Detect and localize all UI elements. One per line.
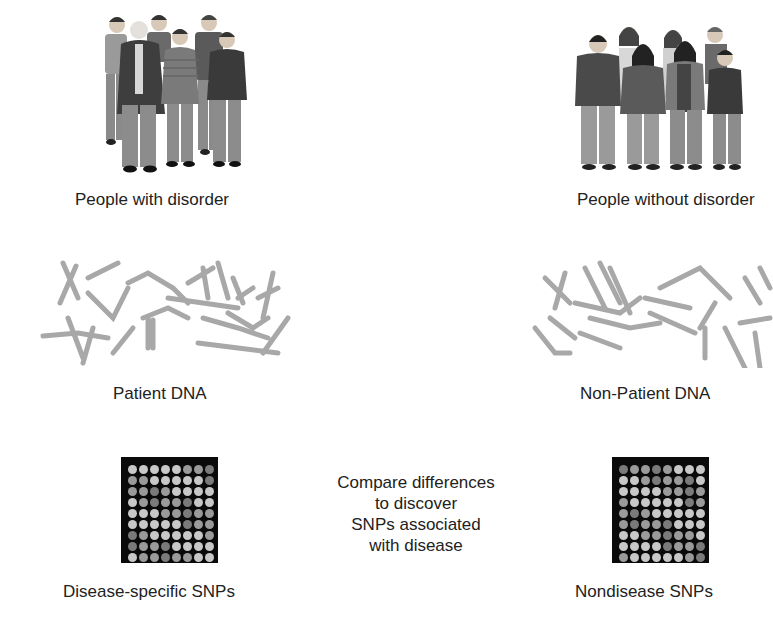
snp-spot	[205, 487, 214, 496]
snp-spot	[663, 542, 672, 551]
snp-spot	[674, 509, 683, 518]
snp-spot	[194, 531, 203, 540]
non-patient-chromosomes-illustration	[530, 258, 773, 368]
person-icon	[575, 35, 621, 170]
snp-spot	[128, 487, 137, 496]
snp-spot	[172, 509, 181, 518]
snp-spot	[194, 520, 203, 529]
snp-spot	[663, 553, 672, 562]
snp-spot	[663, 487, 672, 496]
snp-spot	[641, 487, 650, 496]
snp-spot	[183, 509, 192, 518]
disease-snp-microarray	[121, 457, 218, 563]
snp-spot	[696, 509, 705, 518]
snp-spot	[183, 487, 192, 496]
snp-spot	[641, 509, 650, 518]
snp-spot	[696, 498, 705, 507]
people-with-disorder-label: People with disorder	[75, 190, 229, 210]
snp-spot	[172, 520, 181, 529]
snp-spot	[663, 498, 672, 507]
snp-spot	[150, 487, 159, 496]
snp-spot	[161, 531, 170, 540]
snp-spot	[161, 520, 170, 529]
snp-spot	[161, 498, 170, 507]
people-with-disorder-illustration	[95, 10, 255, 175]
snp-spot	[652, 520, 661, 529]
snp-spot	[172, 498, 181, 507]
snp-spot	[139, 498, 148, 507]
snp-spot	[619, 476, 628, 485]
snp-spot	[674, 498, 683, 507]
snp-spot	[619, 553, 628, 562]
snp-spot	[696, 465, 705, 474]
snp-spot	[139, 553, 148, 562]
snp-spot	[641, 520, 650, 529]
snp-spot	[663, 520, 672, 529]
snp-spot	[139, 542, 148, 551]
snp-spot	[128, 531, 137, 540]
snp-spot	[652, 487, 661, 496]
snp-spot	[619, 487, 628, 496]
snp-spot	[183, 520, 192, 529]
snp-spot	[194, 542, 203, 551]
snp-spot	[139, 476, 148, 485]
snp-spot	[183, 498, 192, 507]
snp-spot	[619, 531, 628, 540]
snp-spot	[128, 498, 137, 507]
snp-spot	[663, 509, 672, 518]
compare-caption: Compare differences to discover SNPs ass…	[296, 472, 536, 556]
snp-spot	[619, 465, 628, 474]
snp-spot	[194, 465, 203, 474]
snp-spot	[161, 542, 170, 551]
snp-spot	[674, 487, 683, 496]
snp-spot	[630, 520, 639, 529]
snp-spot	[685, 509, 694, 518]
snp-spot	[641, 531, 650, 540]
people-without-disorder-label: People without disorder	[577, 190, 755, 210]
snp-spot	[674, 465, 683, 474]
snp-spot	[663, 531, 672, 540]
snp-spot	[685, 520, 694, 529]
snp-spot	[128, 520, 137, 529]
patient-chromosomes-illustration	[38, 258, 308, 368]
snp-spot	[641, 465, 650, 474]
snp-spot	[696, 487, 705, 496]
snp-spot	[630, 531, 639, 540]
snp-spot	[685, 542, 694, 551]
caption-line: SNPs associated	[296, 514, 536, 535]
patient-dna-label: Patient DNA	[113, 384, 207, 404]
nondisease-snp-microarray	[612, 457, 709, 563]
snp-spot	[150, 465, 159, 474]
snp-spot	[128, 542, 137, 551]
disease-specific-snps-label: Disease-specific SNPs	[63, 582, 235, 602]
snp-spot	[630, 487, 639, 496]
snp-spot	[696, 476, 705, 485]
snp-spot	[696, 531, 705, 540]
snp-spot	[685, 498, 694, 507]
snp-spot	[172, 531, 181, 540]
snp-spot	[630, 476, 639, 485]
snp-spot	[619, 498, 628, 507]
snp-spot	[161, 553, 170, 562]
snp-spot	[619, 520, 628, 529]
snp-spot	[139, 465, 148, 474]
snp-spot	[139, 520, 148, 529]
snp-spot	[139, 487, 148, 496]
snp-spot	[161, 487, 170, 496]
snp-spot	[150, 531, 159, 540]
snp-spot	[150, 476, 159, 485]
snp-spot	[161, 465, 170, 474]
snp-spot	[150, 553, 159, 562]
snp-spot	[172, 487, 181, 496]
snp-spot	[205, 498, 214, 507]
snp-spot	[205, 509, 214, 518]
snp-spot	[194, 476, 203, 485]
snp-spot	[674, 553, 683, 562]
non-patient-dna-label: Non-Patient DNA	[580, 384, 710, 404]
snp-spot	[150, 498, 159, 507]
snp-spot	[652, 553, 661, 562]
snp-spot	[663, 476, 672, 485]
snp-spot	[674, 476, 683, 485]
snp-spot	[161, 476, 170, 485]
snp-spot	[139, 531, 148, 540]
